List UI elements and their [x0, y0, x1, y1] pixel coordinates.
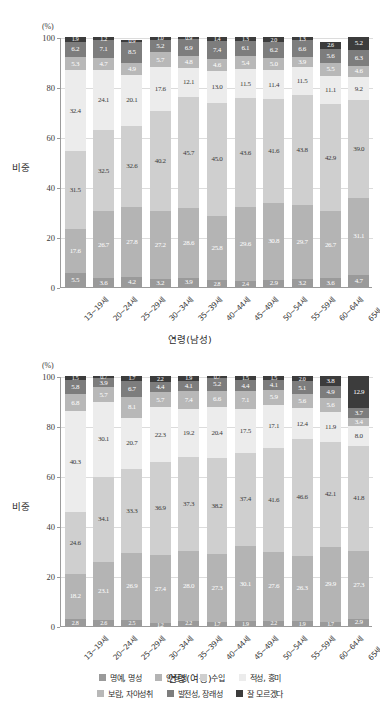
legend-item[interactable]: 보람, 자아성취 — [97, 688, 153, 699]
bar-segment[interactable]: 2.8 — [207, 280, 228, 287]
bar-segment[interactable]: 2.6 — [320, 42, 341, 49]
bar-segment[interactable]: 5.2 — [150, 40, 171, 53]
bar-segment[interactable]: 27.3 — [348, 551, 369, 619]
bar-segment[interactable]: 1.7 — [207, 622, 228, 626]
bar-segment[interactable]: 4.6 — [348, 66, 369, 77]
bar-segment[interactable]: 41.6 — [263, 99, 284, 203]
bar-segment[interactable]: 26.7 — [93, 211, 114, 278]
bar-segment[interactable]: 24.1 — [93, 70, 114, 130]
bar-segment[interactable]: 1.3 — [235, 37, 256, 40]
bar-segment[interactable]: 30.8 — [263, 203, 284, 280]
bar-segment[interactable]: 1.0 — [150, 37, 171, 40]
bar-segment[interactable]: 1.9 — [65, 37, 86, 42]
bar-segment[interactable]: 40.3 — [65, 411, 86, 512]
legend-item[interactable]: 수입 — [200, 672, 224, 683]
bar-segment[interactable]: 42.9 — [320, 104, 341, 211]
bar-segment[interactable]: 40.2 — [150, 111, 171, 211]
bar-segment[interactable]: 6.9 — [178, 39, 199, 56]
bar-segment[interactable]: 4.1 — [263, 380, 284, 390]
bar-segment[interactable]: 5.7 — [93, 387, 114, 401]
bar-segment[interactable]: 13.0 — [207, 71, 228, 104]
bar-stack[interactable]: 1.227.436.922.35.74.42.2 — [150, 376, 171, 626]
bar-segment[interactable]: 0.7 — [207, 376, 228, 378]
bar-segment[interactable]: 5.3 — [65, 57, 86, 70]
bar-segment[interactable]: 29.9 — [320, 547, 341, 622]
bar-segment[interactable]: 45.7 — [178, 97, 199, 208]
bar-segment[interactable]: 6.3 — [348, 50, 369, 66]
bar-segment[interactable]: 42.1 — [320, 442, 341, 547]
bar-segment[interactable]: 30.1 — [235, 546, 256, 621]
bar-segment[interactable]: 32.6 — [121, 126, 142, 208]
bar-segment[interactable]: 17.5 — [235, 409, 256, 453]
bar-segment[interactable]: 8.0 — [348, 426, 369, 446]
bar-segment[interactable]: 3.2 — [150, 279, 171, 287]
bar-segment[interactable]: 6.8 — [65, 394, 86, 411]
bar-stack[interactable]: 2.526.933.320.78.16.71.7 — [121, 376, 142, 626]
bar-segment[interactable]: 12.1 — [178, 68, 199, 97]
bar-segment[interactable]: 5.1 — [292, 381, 313, 394]
bar-segment[interactable]: 4.9 — [121, 63, 142, 75]
bar-segment[interactable]: 5.0 — [263, 58, 284, 71]
bar-segment[interactable]: 1.9 — [235, 621, 256, 626]
bar-segment[interactable]: 23.1 — [93, 562, 114, 620]
bar-segment[interactable]: 28.0 — [178, 551, 199, 621]
bar-segment[interactable]: 0.9 — [121, 40, 142, 42]
bar-segment[interactable]: 26.9 — [121, 553, 142, 620]
bar-segment[interactable]: 22.3 — [150, 407, 171, 463]
bar-segment[interactable]: 26.7 — [320, 211, 341, 278]
bar-segment[interactable]: 6.2 — [65, 42, 86, 57]
bar-segment[interactable]: 1.5 — [235, 376, 256, 380]
bar-segment[interactable]: 3.6 — [93, 278, 114, 287]
bar-segment[interactable]: 7.1 — [93, 40, 114, 58]
legend-item[interactable]: 명예, 명성 — [99, 672, 141, 683]
bar-segment[interactable]: 20.1 — [121, 75, 142, 125]
bar-segment[interactable]: 27.2 — [150, 211, 171, 279]
bar-segment[interactable]: 12.4 — [292, 408, 313, 439]
bar-stack[interactable]: 4.731.139.09.24.66.35.2 — [348, 37, 369, 287]
bar-stack[interactable]: 2.228.037.319.27.44.11.9 — [178, 376, 199, 626]
bar-segment[interactable]: 3.9 — [292, 57, 313, 67]
bar-segment[interactable]: 17.6 — [150, 67, 171, 111]
bar-segment[interactable]: 8.1 — [121, 397, 142, 417]
bar-segment[interactable]: 31.1 — [348, 198, 369, 276]
bar-segment[interactable]: 1.3 — [292, 37, 313, 40]
bar-segment[interactable]: 46.6 — [292, 439, 313, 556]
bar-stack[interactable]: 2.825.845.013.04.67.41.4 — [207, 37, 228, 287]
bar-segment[interactable]: 27.3 — [207, 554, 228, 622]
bar-segment[interactable]: 11.5 — [235, 69, 256, 98]
bar-segment[interactable]: 2.2 — [178, 621, 199, 627]
bar-segment[interactable]: 5.7 — [150, 392, 171, 406]
bar-segment[interactable]: 6.6 — [292, 40, 313, 57]
bar-stack[interactable]: 3.928.645.712.14.86.90.9 — [178, 37, 199, 287]
bar-stack[interactable]: 3.626.742.911.15.55.62.6 — [320, 37, 341, 287]
bar-segment[interactable]: 5.6 — [320, 398, 341, 412]
legend-item[interactable]: 발전성, 장래성 — [167, 688, 223, 699]
bar-segment[interactable]: 18.2 — [65, 574, 86, 620]
bar-segment[interactable]: 4.7 — [348, 275, 369, 287]
bar-segment[interactable]: 6.6 — [207, 391, 228, 407]
bar-segment[interactable]: 29.6 — [235, 207, 256, 281]
bar-segment[interactable]: 5.2 — [348, 37, 369, 50]
bar-segment[interactable]: 1.7 — [320, 622, 341, 626]
bar-segment[interactable]: 27.6 — [263, 552, 284, 621]
bar-segment[interactable]: 3.7 — [348, 408, 369, 417]
bar-segment[interactable]: 19.2 — [178, 409, 199, 457]
bar-segment[interactable]: 2.5 — [121, 620, 142, 626]
bar-segment[interactable]: 3.8 — [320, 376, 341, 386]
bar-segment[interactable]: 1.5 — [65, 376, 86, 380]
bar-segment[interactable]: 5.5 — [65, 273, 86, 287]
bar-segment[interactable]: 5.8 — [65, 380, 86, 395]
bar-segment[interactable]: 11.4 — [263, 70, 284, 99]
bar-segment[interactable]: 0.9 — [178, 37, 199, 39]
bar-segment[interactable]: 33.3 — [121, 469, 142, 552]
bar-segment[interactable]: 26.3 — [292, 556, 313, 622]
bar-segment[interactable]: 7.1 — [235, 391, 256, 409]
bar-segment[interactable]: 12.9 — [348, 376, 369, 408]
bar-stack[interactable]: 1.727.338.220.46.65.20.7 — [207, 376, 228, 626]
bar-stack[interactable]: 2.818.224.640.36.85.81.5 — [65, 376, 86, 626]
bar-segment[interactable]: 2.4 — [235, 281, 256, 287]
bar-segment[interactable]: 0.7 — [93, 376, 114, 378]
bar-segment[interactable]: 4.1 — [178, 381, 199, 391]
bar-segment[interactable]: 2.2 — [263, 621, 284, 627]
bar-segment[interactable]: 4.7 — [93, 58, 114, 70]
